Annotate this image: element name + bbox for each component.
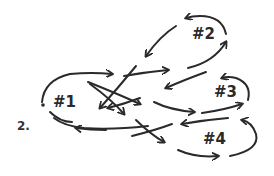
arrow-2-to-1-top <box>146 26 176 56</box>
node-1-label: #1 <box>53 95 76 110</box>
arrow-center-to-2 <box>188 42 226 68</box>
arrow-to-4 <box>178 150 218 156</box>
loop-4 <box>230 120 256 156</box>
arc-1-lower <box>50 112 72 122</box>
arrow-3-to-center <box>166 72 206 88</box>
node-3-label: #3 <box>214 85 237 100</box>
arrow-center-to-3 <box>154 102 194 112</box>
arrow-bottom-to-1 <box>54 118 148 129</box>
node-2-label: #2 <box>192 27 215 42</box>
arrow-to-3-right <box>202 104 242 113</box>
node-4-label: #4 <box>203 132 226 147</box>
arrow-4-to-center <box>182 118 228 124</box>
figure-number: 2. <box>17 120 30 132</box>
start-dot <box>41 103 45 107</box>
